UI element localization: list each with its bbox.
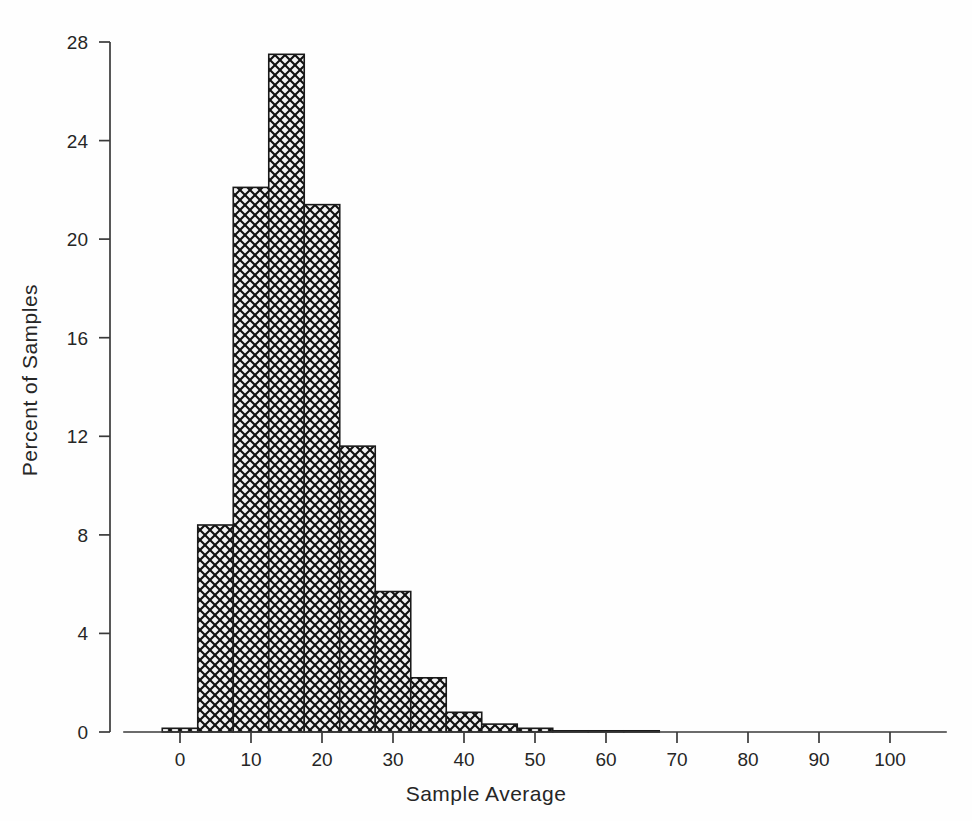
y-tick-label: 12 [67,426,88,447]
x-tick-label: 100 [874,749,906,770]
bar-rect [482,724,518,732]
y-tick-label: 24 [67,131,89,152]
histogram-bar [411,678,447,732]
bar-rect [375,592,411,732]
bar-rect [198,525,234,732]
x-tick-label: 50 [524,749,545,770]
y-tick-label: 16 [67,328,88,349]
x-tick-label: 40 [453,749,474,770]
bar-rect [304,205,340,732]
histogram-bar [375,592,411,732]
histogram-bar [304,205,340,732]
bar-rect [269,54,305,732]
y-tick-label: 4 [77,623,88,644]
x-tick-label: 10 [240,749,261,770]
y-tick-label: 20 [67,229,88,250]
y-axis-label: Percent of Samples [18,284,42,476]
bar-rect [233,187,269,732]
y-axis-label-container: Percent of Samples [0,0,60,760]
histogram-figure: 01020304050607080901000481216202428 Perc… [0,0,972,821]
y-tick-label: 8 [77,525,88,546]
histogram-plot: 01020304050607080901000481216202428 [0,0,972,821]
bar-rect [340,446,376,732]
x-tick-label: 0 [175,749,186,770]
bar-rect [446,712,482,732]
x-tick-label: 60 [595,749,616,770]
histogram-bar [446,712,482,732]
histogram-bar [198,525,234,732]
histogram-bar [269,54,305,732]
x-tick-label: 20 [311,749,332,770]
histogram-bar [340,446,376,732]
histogram-bar [233,187,269,732]
x-tick-label: 80 [737,749,758,770]
bars-layer [162,54,659,732]
y-tick-label: 28 [67,32,88,53]
histogram-bar [482,724,518,732]
y-tick-label: 0 [77,722,88,743]
tick-labels-layer: 01020304050607080901000481216202428 [67,32,906,770]
x-tick-label: 90 [808,749,829,770]
bar-rect [411,678,447,732]
x-tick-label: 30 [382,749,403,770]
x-tick-label: 70 [666,749,687,770]
x-axis-label: Sample Average [0,782,972,806]
